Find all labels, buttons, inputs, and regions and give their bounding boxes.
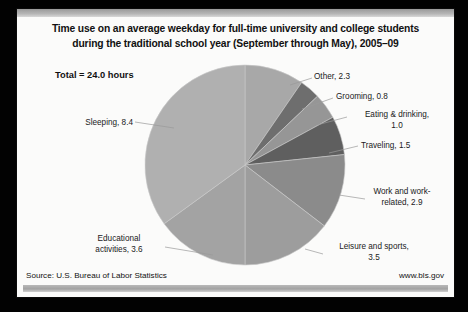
- slice-label-traveling: Traveling, 1.5: [361, 140, 410, 151]
- bottom-accent-bar: [23, 285, 448, 292]
- slice-label-eating-line-1: Eating & drinking,: [347, 109, 447, 120]
- slice-label-educational-line-1: Educational: [73, 233, 165, 244]
- pie-slice-group: [145, 65, 345, 265]
- slice-label-sleeping: Sleeping, 8.4: [55, 117, 133, 128]
- slice-label-eating-line-2: 1.0: [347, 120, 447, 131]
- slice-label-work-line-1: Work and work-: [357, 186, 447, 197]
- leader-line-leisure: [305, 249, 323, 254]
- slice-label-eating-and-drinking: Eating & drinking, 1.0: [347, 109, 447, 131]
- website-note[interactable]: www.bls.gov: [399, 271, 444, 280]
- source-note: Source: U.S. Bureau of Labor Statistics: [26, 271, 167, 280]
- slice-label-leisure-line-2: 3.5: [322, 252, 426, 263]
- slice-label-other: Other, 2.3: [314, 71, 350, 82]
- screenshot-frame: Time use on an average weekday for full-…: [0, 0, 468, 312]
- slice-label-work-and-work-related: Work and work- related, 2.9: [357, 186, 447, 208]
- slide-canvas: Time use on an average weekday for full-…: [17, 9, 454, 297]
- slice-label-leisure-and-sports: Leisure and sports, 3.5: [322, 241, 426, 263]
- slice-label-grooming: Grooming, 0.8: [336, 91, 388, 102]
- slice-label-leisure-line-1: Leisure and sports,: [322, 241, 426, 252]
- slice-label-educational-line-2: activities, 3.6: [73, 244, 165, 255]
- slice-label-work-line-2: related, 2.9: [357, 197, 447, 208]
- slice-label-educational-activities: Educational activities, 3.6: [73, 233, 165, 255]
